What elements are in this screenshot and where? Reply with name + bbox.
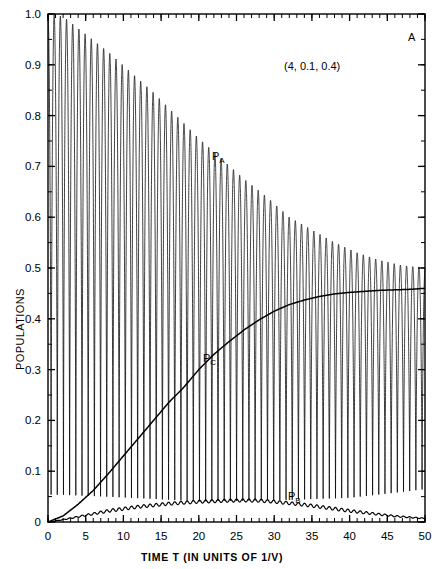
- x-axis-title: TIME T (IN UNITS OF 1/V): [141, 551, 283, 563]
- y-tick-label: 1.0: [25, 8, 41, 20]
- figure-panel: 0510152025303540455000.10.20.30.40.50.60…: [0, 0, 447, 569]
- y-axis-title: POPULATIONS: [14, 288, 26, 370]
- y-tick-label: 0.5: [25, 262, 41, 274]
- y-tick-label: 0.1: [25, 465, 41, 477]
- x-tick-label: 35: [306, 530, 319, 542]
- x-tick-label: 15: [155, 530, 168, 542]
- y-tick-label: 0.8: [25, 110, 41, 122]
- curve-label-pb-sub: B: [295, 496, 300, 505]
- series-pa: [48, 14, 425, 501]
- x-tick-label: 25: [230, 530, 243, 542]
- x-tick-label: 30: [268, 530, 281, 542]
- population-dynamics-chart: 0510152025303540455000.10.20.30.40.50.60…: [0, 0, 447, 569]
- curve-label-pb: PB: [288, 490, 301, 505]
- x-tick-label: 50: [419, 530, 432, 542]
- x-tick-label: 45: [381, 530, 394, 542]
- parameter-annotation: (4, 0.1, 0.4): [284, 60, 340, 72]
- curve-label-pa-sub: A: [219, 156, 224, 165]
- x-tick-label: 20: [192, 530, 205, 542]
- y-tick-label: 0.7: [25, 160, 41, 172]
- curve-label-pc-sub: C: [210, 358, 216, 367]
- x-tick-label: 10: [117, 530, 130, 542]
- curve-label-pc: PC: [203, 352, 216, 367]
- x-tick-label: 5: [82, 530, 88, 542]
- panel-label: A: [408, 31, 415, 43]
- y-tick-label: 0.4: [25, 313, 42, 325]
- x-tick-label: 0: [45, 530, 51, 542]
- y-tick-label: 0.6: [25, 211, 41, 223]
- x-tick-label: 40: [343, 530, 356, 542]
- y-tick-label: 0: [35, 516, 41, 528]
- y-tick-label: 0.3: [25, 364, 41, 376]
- y-tick-label: 0.9: [25, 59, 41, 71]
- y-tick-label: 0.2: [25, 414, 41, 426]
- curve-label-pa: PA: [212, 150, 225, 165]
